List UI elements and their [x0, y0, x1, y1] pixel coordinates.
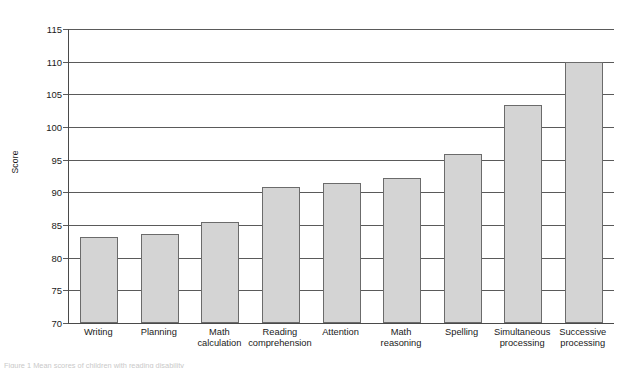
gridline: [69, 62, 614, 63]
x-axis-label-line: Writing: [64, 327, 133, 338]
bar: [201, 222, 239, 323]
x-axis-label-line: Reading: [246, 327, 315, 338]
y-axis-tick-label: 115: [24, 24, 62, 35]
bar: [444, 154, 482, 323]
x-axis-label: Readingcomprehension: [246, 327, 315, 350]
y-axis-title: Score: [8, 0, 22, 323]
x-axis-label-line: Simultaneous: [488, 327, 557, 338]
x-axis-label-line: Math: [185, 327, 254, 338]
y-axis-tick-label: 110: [24, 56, 62, 67]
plot-area: [68, 29, 614, 324]
y-axis-tick-label: 85: [24, 220, 62, 231]
gridline: [69, 94, 614, 95]
x-axis-label-line: Successive: [548, 327, 617, 338]
bar: [141, 234, 179, 323]
x-axis-label: Mathreasoning: [367, 327, 436, 350]
x-axis-label-line: Planning: [125, 327, 194, 338]
figure-caption: Figure 1 Mean scores of children with re…: [4, 361, 404, 368]
bar-chart-figure: Score 115110105100959085807570 WritingPl…: [0, 0, 625, 368]
x-axis-label-line: Math: [367, 327, 436, 338]
y-axis-title-text: Score: [10, 150, 20, 173]
x-axis-label-line: reasoning: [367, 338, 436, 349]
y-axis-tick-label: 80: [24, 252, 62, 263]
x-axis-label: Planning: [125, 327, 194, 338]
bar: [504, 105, 542, 323]
x-axis-label-line: Attention: [306, 327, 375, 338]
x-axis-label: Spelling: [427, 327, 496, 338]
x-axis-label-line: processing: [548, 338, 617, 349]
x-axis-label: Writing: [64, 327, 133, 338]
x-axis-label-line: comprehension: [246, 338, 315, 349]
y-axis-tick-label: 105: [24, 89, 62, 100]
x-axis-label: Attention: [306, 327, 375, 338]
x-axis-label: Mathcalculation: [185, 327, 254, 350]
x-axis-label: Successiveprocessing: [548, 327, 617, 350]
bar: [323, 183, 361, 323]
y-axis-tick-label: 90: [24, 187, 62, 198]
x-axis-label-line: calculation: [185, 338, 254, 349]
y-axis-tick-label: 75: [24, 285, 62, 296]
bar: [383, 178, 421, 323]
x-axis-label: Simultaneousprocessing: [488, 327, 557, 350]
x-axis-label-line: processing: [488, 338, 557, 349]
bar: [565, 62, 603, 323]
x-axis-label-line: Spelling: [427, 327, 496, 338]
y-axis-tick-label: 95: [24, 154, 62, 165]
x-axis-label-group: WritingPlanningMathcalculationReadingcom…: [68, 327, 625, 361]
y-axis-tick-label: 70: [24, 318, 62, 329]
gridline: [69, 29, 614, 30]
bar: [80, 237, 118, 323]
bar: [262, 187, 300, 323]
y-axis-tick-label: 100: [24, 122, 62, 133]
